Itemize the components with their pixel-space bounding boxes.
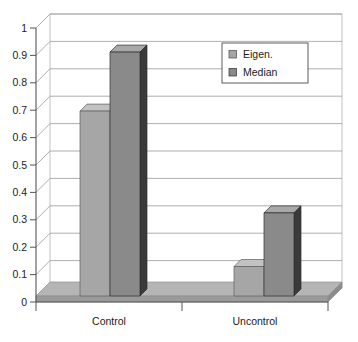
depth-connectors [36,14,50,275]
y-tick-label-0: 0 [21,296,27,308]
bar-front-face [110,52,140,296]
connector-0.1 [36,261,50,275]
y-tick-label-0.8: 0.8 [12,76,27,88]
connector-0.6 [36,124,50,138]
connector-0.8 [36,69,50,83]
bar-side-face [140,45,147,296]
y-tick-label-0.3: 0.3 [12,213,27,225]
y-tick-label-0.2: 0.2 [12,241,27,253]
legend[interactable]: Eigen. Median [222,43,308,83]
connector-0.3 [36,206,50,220]
y-axis: 1 0.9 0.8 0.7 0.6 0.5 0.4 0.3 0.2 0.1 0 [12,22,36,308]
connector-0.7 [36,96,50,110]
floor-front [36,296,328,302]
legend-swatch-median-icon [229,69,237,77]
legend-label-median: Median [243,66,278,78]
bar-front-face [264,213,294,296]
x-tick-label-uncontrol: Uncontrol [233,315,278,327]
legend-swatch-eigen-icon [229,51,237,59]
bar-front-face [80,111,110,296]
chart-canvas: 1 0.9 0.8 0.7 0.6 0.5 0.4 0.3 0.2 0.1 0 [0,0,358,342]
connector-0.9 [36,41,50,55]
bar-median-control[interactable] [110,45,147,296]
y-tick-label-0.5: 0.5 [12,159,27,171]
x-axis-ticks [36,302,328,311]
connector-0.2 [36,233,50,247]
y-tick-label-1: 1 [21,22,27,34]
connector-0.5 [36,151,50,165]
y-tick-label-0.6: 0.6 [12,131,27,143]
x-tick-label-control: Control [92,315,126,327]
y-tick-label-0.7: 0.7 [12,104,27,116]
bar-side-face [294,206,301,296]
legend-label-eigen: Eigen. [243,48,273,60]
y-tick-label-0.4: 0.4 [12,186,27,198]
connector-0.4 [36,178,50,192]
y-tick-label-0.1: 0.1 [12,268,27,280]
connector-1.0 [36,14,50,28]
bar-front-face [234,267,264,297]
bar-median-uncontrol[interactable] [264,206,301,296]
y-tick-label-0.9: 0.9 [12,49,27,61]
bar-chart: 1 0.9 0.8 0.7 0.6 0.5 0.4 0.3 0.2 0.1 0 [0,0,358,342]
